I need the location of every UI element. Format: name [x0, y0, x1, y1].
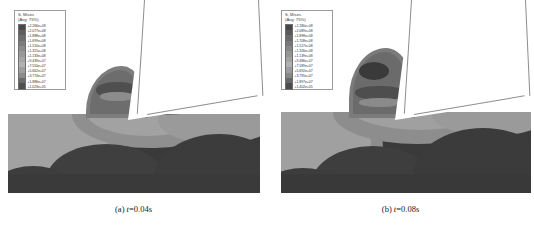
figure-container: S, Mises (Avg: 75%) +2.266e+08+2.077e+08… [0, 0, 534, 226]
cutting-tool-b [395, 0, 527, 120]
legend-colorbar-a [18, 24, 26, 90]
contour-band [8, 174, 260, 193]
workpiece-contour-a [8, 114, 260, 193]
panel-a: S, Mises (Avg: 75%) +2.266e+08+2.077e+08… [0, 0, 267, 196]
workpiece-contour-b [281, 112, 531, 193]
caption-b-prefix: (b) [382, 204, 392, 214]
legend-labels-b: +2.280e+08+2.089e+08+1.898e+08+1.708e+08… [295, 24, 313, 90]
chip-b-void [359, 62, 389, 80]
legend-body-b: +2.280e+08+2.089e+08+1.898e+08+1.708e+08… [285, 24, 313, 90]
caption-a-prefix: (a) [115, 204, 124, 214]
legend-swatch-11 [19, 83, 25, 88]
legend-label-12: +1.023e+05 [28, 85, 46, 90]
caption-b-value: =0.08s [396, 204, 419, 214]
chip-a-light-band [100, 92, 134, 101]
legend-labels-a: +2.266e+08+2.077e+08+1.888e+08+1.699e+08… [28, 24, 46, 90]
cutting-tool-a [128, 0, 260, 120]
legend-subtitle-a: (Avg: 75%) [18, 17, 39, 22]
legend-body-a: +2.266e+08+2.077e+08+1.888e+08+1.699e+08… [18, 24, 46, 90]
contour-band [281, 174, 531, 193]
legend-swatch-11 [286, 83, 292, 88]
caption-b: (b) t=0.08s [267, 199, 534, 219]
legend-subtitle-b: (Avg: 75%) [285, 17, 306, 22]
chip-b-light-band [359, 98, 401, 107]
legend-colorbar-b [285, 24, 293, 90]
legend-a: S, Mises (Avg: 75%) +2.266e+08+2.077e+08… [14, 10, 66, 90]
caption-a-value: =0.04s [129, 204, 152, 214]
legend-label-12: +1.402e+05 [295, 85, 313, 90]
panel-b: S, Mises (Avg: 75%) +2.280e+08+2.089e+08… [267, 0, 534, 196]
legend-b: S, Mises (Avg: 75%) +2.280e+08+2.089e+08… [281, 10, 333, 90]
caption-a: (a) t=0.04s [0, 199, 267, 219]
